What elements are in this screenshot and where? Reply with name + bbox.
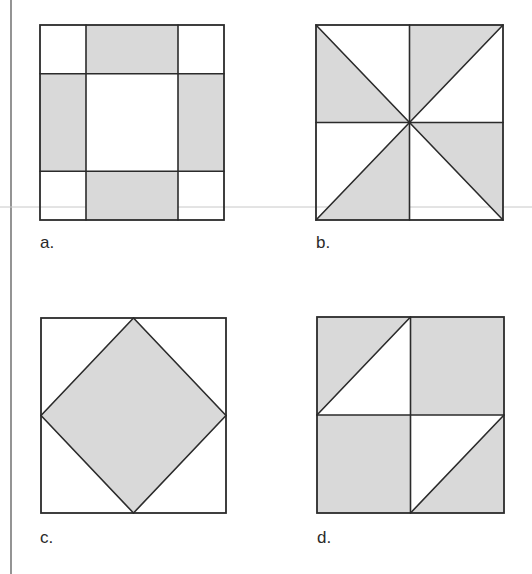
shaded-bottom-bar — [86, 171, 178, 220]
shaded-right-bar — [178, 74, 224, 172]
shaded-diamond — [41, 318, 226, 513]
panel-a-label: a. — [40, 234, 54, 251]
quilt-block-diagram — [0, 0, 532, 574]
panel-b — [316, 25, 503, 220]
panel-c — [41, 318, 226, 513]
shaded-top-bar — [86, 25, 178, 74]
panel-b-label: b. — [316, 234, 330, 251]
panel-c-label: c. — [40, 529, 53, 546]
shaded-left-bar — [40, 74, 86, 172]
figure-canvas: a. b. c. d. — [0, 0, 532, 574]
panel-d-label: d. — [317, 529, 331, 546]
panel-a — [40, 25, 224, 220]
panel-d — [317, 317, 504, 513]
